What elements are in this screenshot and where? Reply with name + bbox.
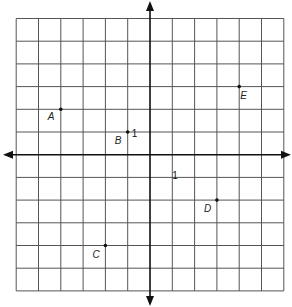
point-C-label: C bbox=[92, 249, 100, 260]
unit-label-y: 1 bbox=[132, 128, 138, 139]
y-axis-up-arrow-icon bbox=[146, 1, 154, 11]
coordinate-plane: 1 1 A B C D E bbox=[0, 0, 292, 307]
y-axis-down-arrow-icon bbox=[146, 296, 154, 306]
point-D-label: D bbox=[204, 203, 211, 214]
point-B-label: B bbox=[115, 135, 122, 146]
point-C-dot bbox=[104, 244, 108, 248]
point-B-dot bbox=[126, 130, 130, 134]
point-D-dot bbox=[215, 198, 219, 202]
point-E-label: E bbox=[240, 90, 247, 101]
point-A-label: A bbox=[47, 111, 55, 122]
x-axis-right-arrow-icon bbox=[281, 151, 291, 159]
x-axis-left-arrow-icon bbox=[3, 151, 13, 159]
unit-label-x: 1 bbox=[172, 170, 178, 181]
point-A-dot bbox=[59, 108, 63, 112]
axes bbox=[3, 1, 291, 306]
point-E-dot bbox=[237, 85, 241, 89]
